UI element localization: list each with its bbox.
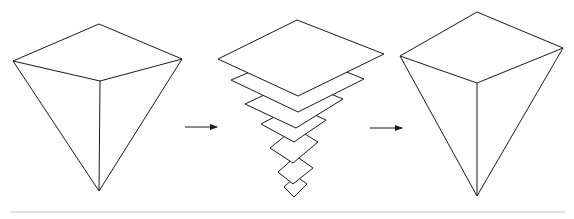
pyramid-start-right-edge [99,59,182,191]
layered-slices [218,20,384,197]
pyramid-start-left-edge [13,61,99,191]
pyramid-end-top-face [400,12,563,83]
pyramid-start-front-edge [99,81,100,191]
pyramid-end [400,12,563,196]
pyramid-start [13,24,182,191]
diagram-canvas [0,0,574,219]
pyramid-start-top-face [13,24,182,81]
